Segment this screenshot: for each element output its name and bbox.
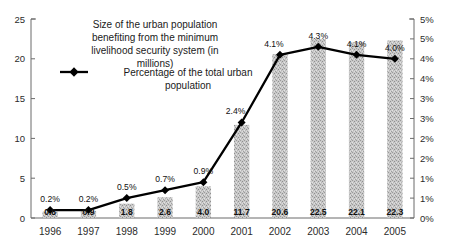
bar-value-label: 22.1 (348, 207, 365, 217)
percentage-value-label: 0.2% (40, 194, 60, 204)
bar-value-label: 0.8 (44, 207, 56, 217)
bar-value-label: 1.8 (121, 207, 133, 217)
bar-value-label: 20.6 (272, 207, 289, 217)
category-label: 2004 (345, 226, 368, 237)
percentage-value-label: 0.7% (155, 174, 175, 184)
right-axis-tick-label: 4% (420, 73, 434, 84)
category-label: 1998 (116, 226, 139, 237)
chart-container: 0510152025 0%1%1%2%2%3%3%4%4%5%5% 0.80.9… (0, 0, 454, 248)
left-axis-tick-label: 20 (14, 53, 25, 64)
right-axis-tick-label: 3% (420, 93, 434, 104)
bar (349, 42, 364, 218)
category-label: 2001 (231, 226, 254, 237)
bar-value-label: 22.5 (310, 207, 327, 217)
left-axis-tick-label: 0 (20, 213, 25, 224)
right-axis-tick-label: 2% (420, 133, 434, 144)
bar (387, 40, 402, 218)
legend-line-label-line-1: Percentage of the total urban (124, 67, 253, 78)
right-axis-tick-label: 1% (420, 173, 434, 184)
bar-value-label: 4.0 (197, 207, 209, 217)
percentage-value-label: 4.1% (264, 39, 284, 49)
category-label: 2003 (307, 226, 330, 237)
percentage-value-label: 0.5% (117, 182, 137, 192)
right-axis-tick-label: 5% (420, 33, 434, 44)
category-label: 1999 (154, 226, 177, 237)
category-label: 1996 (39, 226, 62, 237)
bar-value-label: 2.6 (159, 207, 171, 217)
legend-bar-label-line-2: benefiting from the minimum (92, 32, 218, 43)
left-axis-tick-label: 5 (20, 173, 25, 184)
bar-value-label: 0.9 (82, 207, 94, 217)
bar (234, 125, 249, 218)
category-label: 2002 (269, 226, 292, 237)
category-label: 2005 (384, 226, 407, 237)
percentage-value-label: 0.9% (194, 166, 214, 176)
bar-value-label: 11.7 (234, 207, 250, 217)
percentage-value-label: 4.0% (385, 43, 405, 53)
left-axis-tick-label: 25 (14, 14, 25, 25)
percentage-value-label: 4.3% (308, 31, 328, 41)
percentage-value-label: 0.2% (79, 194, 99, 204)
percentage-value-label: 2.4% (226, 106, 246, 116)
right-axis-tick-label: 1% (420, 193, 434, 204)
legend-bar-label-line-3: livelihood security system (in (91, 45, 218, 56)
bar (272, 54, 287, 218)
right-axis-tick-label: 2% (420, 153, 434, 164)
right-axis-tick-label: 0% (420, 213, 434, 224)
right-axis-tick-label: 3% (420, 113, 434, 124)
right-axis-tick-label: 4% (420, 53, 434, 64)
left-axis-tick-label: 15 (14, 93, 25, 104)
left-axis-tick-label: 10 (14, 133, 25, 144)
legend-line-label-line-2: population (165, 80, 211, 91)
legend-bar-label-line-1: Size of the urban population (93, 19, 218, 30)
bar (311, 39, 326, 218)
percentage-value-label: 4.1% (347, 39, 367, 49)
bar-value-label: 22.3 (386, 207, 403, 217)
category-label: 2000 (192, 226, 215, 237)
right-axis-tick-label: 5% (420, 14, 434, 25)
category-label: 1997 (77, 226, 100, 237)
combo-chart: 0510152025 0%1%1%2%2%3%3%4%4%5%5% 0.80.9… (0, 0, 454, 248)
